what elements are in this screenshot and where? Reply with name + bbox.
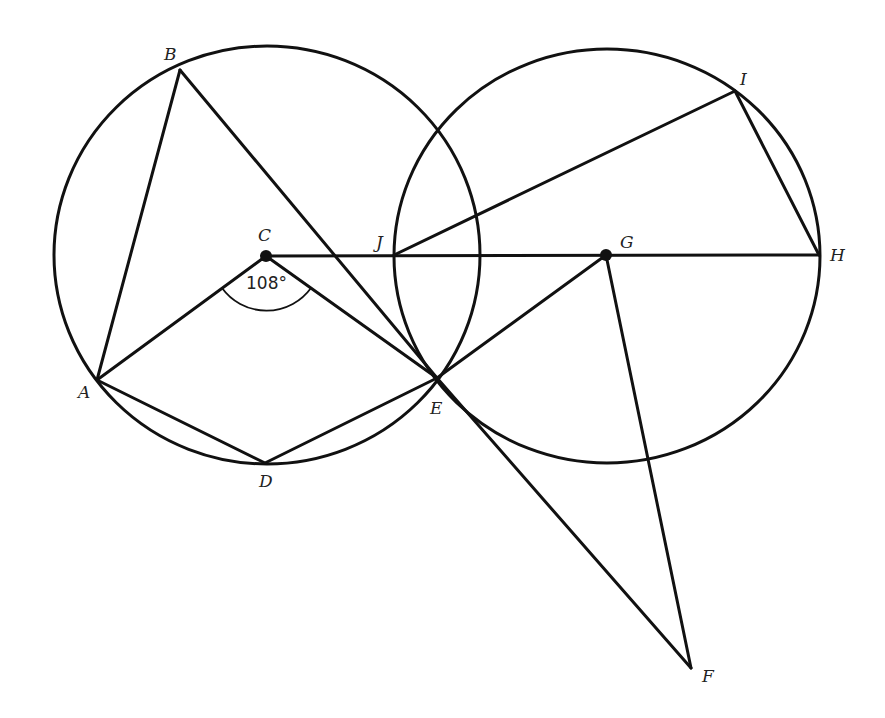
center-dot-c (260, 250, 272, 262)
segment-ji (394, 91, 735, 255)
segment-ad (97, 380, 265, 463)
geometry-diagram: 108° A B C D E F G H I J (0, 0, 885, 718)
segment-de (265, 378, 437, 463)
diagram-svg: 108° A B C D E F G H I J (0, 0, 885, 718)
segment-eg (437, 255, 606, 378)
segment-be (180, 70, 437, 378)
point-label-j: J (373, 232, 384, 252)
segment-ef (437, 378, 691, 668)
segment-ih (735, 91, 819, 255)
point-label-f: F (701, 666, 715, 686)
segment-ch (266, 255, 819, 256)
point-label-b: B (163, 44, 177, 64)
segment-ca (97, 256, 266, 380)
angle-label: 108° (246, 273, 287, 293)
point-label-d: D (258, 471, 273, 491)
point-label-e: E (429, 398, 443, 418)
point-label-h: H (829, 245, 846, 265)
center-dot-g (600, 249, 612, 261)
point-label-c: C (258, 225, 271, 245)
point-label-g: G (620, 232, 634, 252)
point-label-a: A (76, 382, 90, 402)
point-label-i: I (739, 69, 747, 89)
